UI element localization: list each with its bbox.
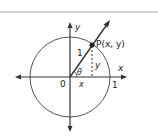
y-axis-up-arrow-icon	[68, 22, 73, 28]
y-axis-label: y	[74, 22, 81, 32]
point-p	[90, 43, 95, 48]
x-intercept-label: 1	[112, 80, 118, 90]
y-axis-down-arrow-icon	[68, 126, 73, 132]
x-leg-label: x	[78, 80, 84, 89]
y-leg-label: y	[94, 60, 101, 70]
angle-label: θ	[77, 68, 82, 77]
radius-label: 1	[77, 48, 83, 58]
x-axis-left-arrow-icon	[15, 75, 21, 80]
point-label: P(x, y)	[96, 39, 125, 49]
unit-circle-diagram: y x 0 1 1 P(x, y) θ x y	[0, 0, 158, 139]
x-axis-label: x	[117, 63, 124, 73]
origin-label: 0	[60, 79, 66, 89]
ray-arrow-icon	[104, 20, 111, 28]
x-axis-right-arrow-icon	[121, 75, 127, 80]
